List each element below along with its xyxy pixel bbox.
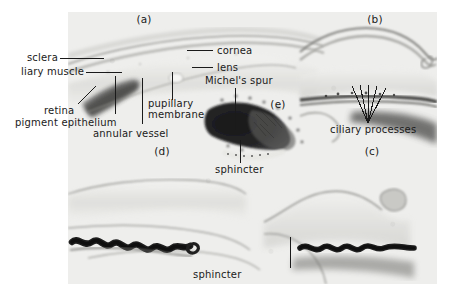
panel-id-d: (d) xyxy=(142,146,182,157)
label-pupillary-membrane-line2: membrane xyxy=(148,109,204,120)
label-pigment-epithelium: pigment epithelium xyxy=(15,117,117,128)
label-ciliary-processes: ciliary processes xyxy=(330,124,416,135)
label-sphincter-panel-e: sphincter xyxy=(215,164,264,175)
label-ciliary-muscle: liary muscle xyxy=(0,66,84,77)
figure-plate: (a) (b) (c) (d) (e) sclera liary muscle … xyxy=(0,0,455,298)
label-lens: lens xyxy=(217,62,238,73)
label-cornea: cornea xyxy=(217,45,252,56)
label-sclera: sclera xyxy=(0,52,58,63)
label-michels-spur: Michel's spur xyxy=(205,75,273,86)
label-annular-vessel: annular vessel xyxy=(93,128,169,139)
panel-id-b: (b) xyxy=(355,14,395,25)
panel-id-e: (e) xyxy=(258,99,298,110)
label-pupillary-membrane-line1: pupillary xyxy=(148,98,193,109)
label-retina: retina xyxy=(44,105,74,116)
panel-id-a: (a) xyxy=(124,14,164,25)
annotation-layer: (a) (b) (c) (d) (e) sclera liary muscle … xyxy=(0,0,455,298)
panel-id-c: (c) xyxy=(352,146,392,157)
label-sphincter-panel-d: sphincter xyxy=(193,269,242,280)
